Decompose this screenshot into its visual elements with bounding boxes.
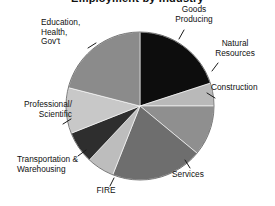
pie-chart: Employment by Industry Goods Producing <box>0 0 275 206</box>
label-construction: Construction <box>211 83 275 93</box>
label-natural-resources: Natural Resources <box>200 39 270 58</box>
label-services: Services <box>172 170 232 180</box>
leader-line-goods-producing <box>179 30 184 39</box>
label-professional-scientific: Professional/ Scientific <box>2 100 72 119</box>
label-transportation-warehousing: Transportation & Warehousing <box>17 155 103 174</box>
label-fire: FIRE <box>88 186 124 196</box>
label-education-health-govt: Education, Health, Gov't <box>41 18 97 47</box>
leader-line-natural-resources <box>212 63 218 71</box>
label-goods-producing: Goods Producing <box>163 5 225 24</box>
